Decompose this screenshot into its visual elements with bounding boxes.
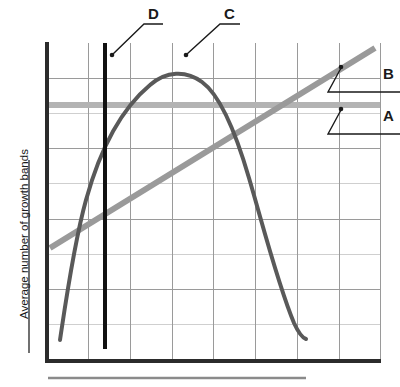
chart-canvas bbox=[0, 0, 400, 387]
series-label-a: A bbox=[383, 108, 394, 123]
series-label-b: B bbox=[383, 66, 394, 81]
series-label-d: D bbox=[148, 6, 159, 21]
y-axis-label: Average number of growth bands bbox=[18, 144, 30, 324]
series-label-c: C bbox=[224, 6, 235, 21]
